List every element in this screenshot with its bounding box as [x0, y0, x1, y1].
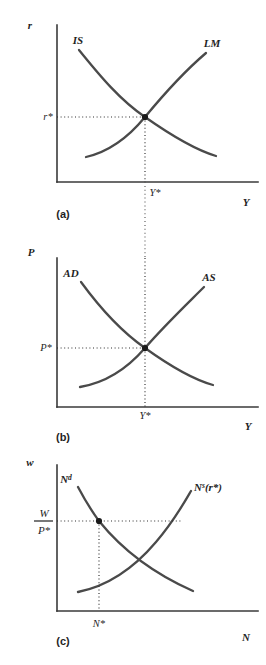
panel-c-labor-supply-curve	[78, 491, 191, 592]
panel-b-as-curve	[80, 287, 204, 387]
panel-a-x-tick-label: Y*	[149, 187, 161, 198]
panel-b-y-tick-label: P*	[39, 342, 52, 353]
panel-c-equilibrium-dot	[96, 518, 102, 524]
panel-c-labor-supply-label: Ns(r*)	[193, 481, 222, 495]
panel-c-real-wage-fraction: W P*	[34, 507, 53, 536]
panel-c-wage-denominator: P*	[37, 524, 51, 536]
panel-c-nd-superscript: d	[68, 473, 72, 482]
panel-b-as-label: AS	[201, 271, 215, 283]
panel-c-labor-demand-curve	[78, 487, 193, 591]
panel-b-caption: (b)	[56, 431, 70, 443]
panel-c-y-axis-label: w	[26, 456, 34, 468]
panel-b: P Y P* Y* AD AS (b)	[28, 246, 258, 443]
panel-c-labor-demand-label: Nd	[59, 473, 72, 486]
panel-c-wage-numerator: W	[39, 507, 49, 519]
panel-c-ns-argument: (r*)	[205, 481, 222, 494]
panel-b-y-axis-label: P	[28, 246, 35, 258]
panel-c-caption: (c)	[56, 635, 70, 647]
panel-a-is-curve	[79, 50, 216, 156]
panel-c: w N W P* N* Nd Ns(r*) (c)	[26, 456, 258, 647]
panel-b-ad-label: AD	[62, 267, 78, 279]
figure-canvas: r Y r* Y* IS LM (a) P Y P* Y* AD AS (b)	[0, 0, 266, 665]
panel-a-equilibrium-dot	[142, 114, 148, 120]
panel-a-lm-curve	[86, 53, 206, 157]
panel-a: r Y r* Y* IS LM (a)	[28, 19, 258, 220]
panel-b-equilibrium-dot	[142, 345, 148, 351]
panel-b-x-axis-label: Y	[245, 420, 253, 432]
panel-a-lm-label: LM	[203, 37, 222, 49]
panel-a-y-tick-label: r*	[43, 111, 53, 122]
panel-a-is-label: IS	[72, 34, 83, 46]
panel-a-x-axis-label: Y	[243, 196, 251, 208]
panel-c-x-tick-label: N*	[92, 618, 106, 629]
panel-b-x-tick-label: Y*	[139, 410, 151, 421]
panel-a-y-axis-label: r	[28, 19, 33, 31]
economics-figure: r Y r* Y* IS LM (a) P Y P* Y* AD AS (b)	[0, 0, 266, 665]
panel-a-caption: (a)	[56, 208, 70, 220]
panel-c-x-axis-label: N	[241, 631, 251, 643]
